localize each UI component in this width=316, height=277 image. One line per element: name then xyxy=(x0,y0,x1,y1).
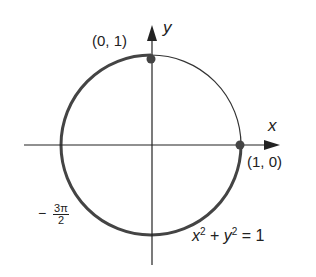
angle-fraction: 3π 2 xyxy=(53,203,69,226)
y-axis-label: y xyxy=(163,18,172,38)
point-label-1-0: (1, 0) xyxy=(247,153,282,170)
x-axis-label: x xyxy=(268,116,277,136)
eq-plus: + xyxy=(206,227,224,244)
eq-rhs: = 1 xyxy=(237,227,264,244)
minus-sign: − xyxy=(38,205,46,221)
eq-y: y xyxy=(224,227,232,244)
x-axis-arrow-icon xyxy=(264,140,280,150)
point-1-0 xyxy=(236,141,245,150)
y-axis-arrow-icon xyxy=(147,25,157,41)
eq-x: x xyxy=(192,227,200,244)
angle-label: − 3π 2 xyxy=(38,203,69,226)
circle-equation: x2 + y2 = 1 xyxy=(192,226,265,245)
point-label-0-1: (0, 1) xyxy=(92,32,127,49)
point-0-1 xyxy=(147,55,156,64)
fraction-denominator: 2 xyxy=(53,215,69,226)
unit-circle-diagram xyxy=(0,0,316,277)
